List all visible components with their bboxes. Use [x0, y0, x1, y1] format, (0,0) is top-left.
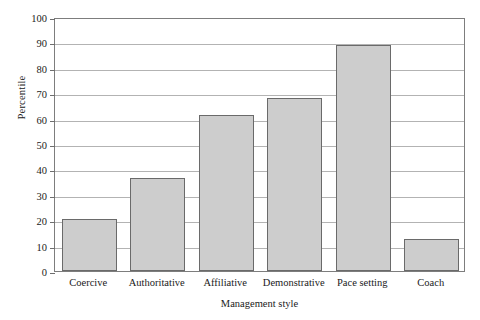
y-axis-title: Percentile — [16, 43, 27, 153]
y-axis-tick-mark — [50, 273, 55, 274]
y-axis-tick-label: 40 — [37, 166, 48, 177]
y-axis-tick-mark — [50, 19, 55, 20]
gridline — [55, 197, 464, 198]
y-axis-tick-label: 10 — [37, 243, 48, 254]
y-axis-tick-label: 60 — [37, 116, 48, 127]
y-axis-tick-mark — [50, 197, 55, 198]
plot-area: 0102030405060708090100 — [54, 18, 465, 272]
y-axis-tick-label: 80 — [37, 65, 48, 76]
bar — [130, 178, 185, 271]
y-axis-tick-label: 50 — [37, 141, 48, 152]
x-axis-tick-label: Coercive — [54, 278, 123, 289]
y-axis-tick-label: 70 — [37, 90, 48, 101]
x-axis-tick-label: Coach — [397, 278, 466, 289]
bar-chart-figure: Percentile 0102030405060708090100 Manage… — [0, 0, 480, 320]
y-axis-tick-mark — [50, 222, 55, 223]
gridline — [55, 171, 464, 172]
y-axis-tick-mark — [50, 70, 55, 71]
x-axis-tick-label: Demonstrative — [260, 278, 329, 289]
bar — [62, 219, 117, 271]
y-axis-tick-mark — [50, 121, 55, 122]
y-axis-tick-label: 90 — [37, 39, 48, 50]
gridline — [55, 70, 464, 71]
x-axis-tick-label: Pace setting — [328, 278, 397, 289]
x-axis-tick-label: Authoritative — [123, 278, 192, 289]
y-axis-tick-mark — [50, 44, 55, 45]
bar — [199, 115, 254, 271]
y-axis-tick-mark — [50, 95, 55, 96]
y-axis-tick-mark — [50, 146, 55, 147]
gridline — [55, 121, 464, 122]
y-axis-tick-mark — [50, 171, 55, 172]
gridline — [55, 44, 464, 45]
bar — [336, 45, 391, 271]
gridline — [55, 146, 464, 147]
gridline — [55, 95, 464, 96]
bar — [267, 98, 322, 271]
x-axis-title: Management style — [54, 298, 465, 309]
bar — [404, 239, 459, 271]
y-axis-tick-mark — [50, 248, 55, 249]
x-axis-tick-label: Affiliative — [191, 278, 260, 289]
y-axis-tick-label: 100 — [31, 14, 47, 25]
y-axis-tick-label: 20 — [37, 217, 48, 228]
y-axis-tick-label: 30 — [37, 192, 48, 203]
y-axis-tick-label: 0 — [42, 268, 47, 279]
